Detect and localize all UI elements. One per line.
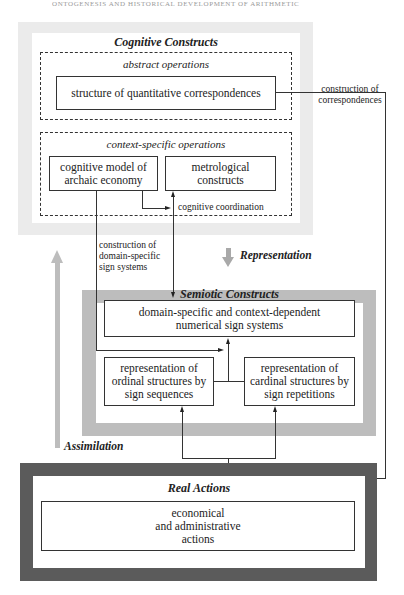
correspondences-line-right xyxy=(385,92,386,479)
domain-specific-box-label: domain-specific and context-dependent nu… xyxy=(139,306,320,332)
ordinal-structures-box: representation of ordinal structures by … xyxy=(104,357,214,406)
real-to-cardinal-line xyxy=(275,412,276,459)
real-to-ordinal-line xyxy=(182,412,183,459)
real-to-boxes-join-line xyxy=(182,458,276,459)
domain-construction-arrow-icon xyxy=(218,348,224,352)
coordination-line-right xyxy=(142,208,166,209)
cardinal-box-label: representation of cardinal structures by… xyxy=(250,362,349,401)
construction-of-correspondences-label: construction of correspondences xyxy=(314,84,386,106)
construction-of-domain-specific-label: construction of domain-specific sign sys… xyxy=(99,240,179,273)
structure-box-label: structure of quantitative correspondence… xyxy=(71,87,260,100)
context-specific-operations-title: context-specific operations xyxy=(40,138,292,151)
metrological-constructs-box: metrological constructs xyxy=(165,156,276,191)
metrological-constructs-label: metrological constructs xyxy=(191,161,249,187)
abstract-operations-title: abstract operations xyxy=(40,58,292,71)
economical-actions-label: economical and administrative actions xyxy=(155,507,240,546)
metrological-link-line xyxy=(173,196,174,294)
cognitive-constructs-title: Cognitive Constructs xyxy=(32,35,300,49)
cognitive-model-label: cognitive model of archaic economy xyxy=(60,161,147,187)
domain-construction-line-right xyxy=(96,350,219,351)
cognitive-coordination-text: cognitive coordination xyxy=(178,202,288,213)
structure-quantitative-correspondences-box: structure of quantitative correspondence… xyxy=(56,76,276,110)
running-head: ONTOGENESIS AND HISTORICAL DEVELOPMENT O… xyxy=(52,0,352,8)
metrological-link-up-arrow-icon xyxy=(171,191,175,197)
assimilation-arrow-shaft xyxy=(55,262,60,448)
economical-administrative-actions-box: economical and administrative actions xyxy=(41,501,355,551)
representation-arrow-icon xyxy=(222,257,234,267)
coordination-arrow-icon xyxy=(165,206,171,210)
representation-label: Representation xyxy=(240,249,320,261)
semiotic-constructs-title: Semiotic Constructs xyxy=(96,287,363,301)
ordinal-cardinal-join-line xyxy=(214,381,244,382)
join-up-line xyxy=(228,344,229,382)
real-actions-title: Real Actions xyxy=(33,481,365,495)
real-to-ordinal-arrow-icon xyxy=(180,406,184,412)
ordinal-box-label: representation of ordinal structures by … xyxy=(112,362,207,401)
metrological-link-down-arrow-icon xyxy=(171,292,175,298)
assimilation-label: Assimilation xyxy=(64,440,144,452)
domain-construction-line-down xyxy=(96,191,97,351)
assimilation-arrow-icon xyxy=(51,250,63,263)
real-to-cardinal-arrow-icon xyxy=(273,406,277,412)
coordination-line-down xyxy=(142,191,143,208)
cardinal-structures-box: representation of cardinal structures by… xyxy=(244,357,355,406)
domain-specific-sign-systems-box: domain-specific and context-dependent nu… xyxy=(104,300,355,337)
cognitive-model-box: cognitive model of archaic economy xyxy=(49,156,158,191)
join-up-arrow-icon xyxy=(226,338,230,344)
